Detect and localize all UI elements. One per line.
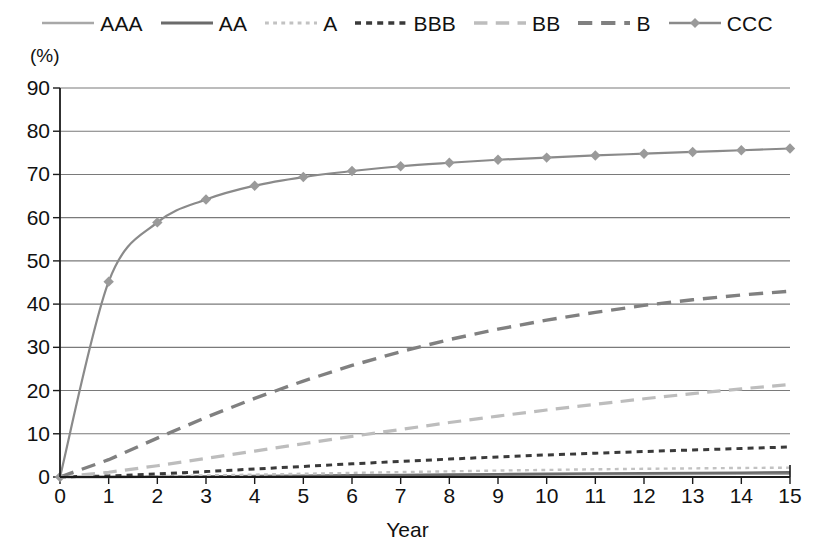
data-point-marker	[639, 148, 649, 158]
data-point-marker	[785, 143, 795, 153]
data-point-marker	[493, 155, 503, 165]
x-tick-label: 7	[395, 484, 407, 508]
x-axis-title: Year	[0, 518, 815, 542]
x-axis-tickmarks	[53, 88, 790, 484]
x-tick-label: 11	[584, 484, 606, 508]
x-tick-label: 14	[730, 484, 753, 508]
series-line-b	[60, 291, 790, 477]
plot-area	[0, 0, 815, 558]
data-point-marker	[444, 158, 454, 168]
series-line-ccc	[60, 149, 790, 477]
x-tick-label: 3	[200, 484, 212, 508]
data-point-marker	[298, 172, 308, 182]
data-point-marker	[736, 145, 746, 155]
x-tick-label: 12	[632, 484, 655, 508]
data-point-marker	[590, 150, 600, 160]
x-tick-label: 5	[297, 484, 309, 508]
x-tick-label: 1	[103, 484, 115, 508]
x-tick-label: 15	[778, 484, 801, 508]
data-point-marker	[249, 180, 259, 190]
data-series-layer	[55, 143, 795, 482]
x-tick-label: 9	[492, 484, 504, 508]
series-line-bb	[60, 385, 790, 477]
x-tick-label: 2	[151, 484, 163, 508]
gridlines	[60, 88, 790, 477]
chart-container: AAAAAABBBBBBCCC (%) 0102030405060708090 …	[0, 0, 815, 558]
data-point-marker	[395, 161, 405, 171]
x-tick-label: 6	[346, 484, 358, 508]
x-tick-label: 4	[249, 484, 261, 508]
data-point-marker	[541, 152, 551, 162]
axis-lines	[60, 88, 790, 477]
data-point-marker	[687, 147, 697, 157]
x-tick-label: 8	[443, 484, 455, 508]
data-point-marker	[201, 194, 211, 204]
x-tick-label: 0	[54, 484, 66, 508]
x-tick-label: 10	[535, 484, 558, 508]
x-tick-label: 13	[681, 484, 704, 508]
x-axis-tick-labels: 0123456789101112131415	[0, 484, 815, 514]
data-point-marker	[103, 276, 113, 286]
